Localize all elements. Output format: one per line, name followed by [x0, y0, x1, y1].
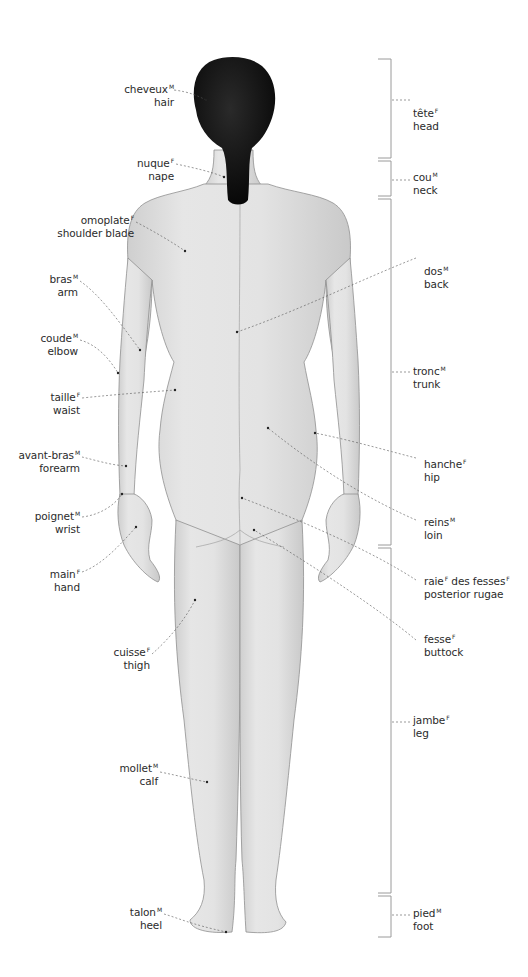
label-elbow: coudeM elbow — [10, 329, 78, 358]
region-brackets — [378, 59, 391, 937]
region-label-foot: piedM foot — [413, 904, 441, 933]
hair — [194, 57, 275, 204]
region-label-leg: jambeF leg — [413, 711, 450, 740]
body-figure — [0, 0, 528, 977]
label-forearm: avant-brasM forearm — [0, 446, 80, 475]
region-label-head: têteF head — [413, 104, 439, 133]
label-posterior-rugae: raieF des fessesF posterior rugae — [424, 572, 510, 601]
label-loin: reinsM loin — [424, 513, 455, 542]
label-hand: mainF hand — [10, 565, 80, 594]
label-thigh: cuisseF thigh — [80, 643, 150, 672]
label-hair: cheveuxM hair — [100, 80, 174, 109]
label-shoulder-blade: omoplateF shoulder blade — [40, 211, 134, 240]
label-back: dosM back — [424, 262, 449, 291]
region-label-neck: couM neck — [413, 168, 438, 197]
label-calf: molletM calf — [90, 759, 158, 788]
label-buttock: fesseF buttock — [424, 630, 463, 659]
region-label-trunk: troncM trunk — [413, 362, 446, 391]
body-silhouette — [118, 150, 360, 933]
label-wrist: poignetM wrist — [10, 507, 80, 536]
label-arm: brasM arm — [10, 270, 78, 299]
label-waist: tailleF waist — [10, 388, 80, 417]
label-heel: talonM heel — [90, 903, 162, 932]
label-hip: hancheF hip — [424, 455, 466, 484]
label-nape: nuqueF nape — [100, 154, 174, 183]
